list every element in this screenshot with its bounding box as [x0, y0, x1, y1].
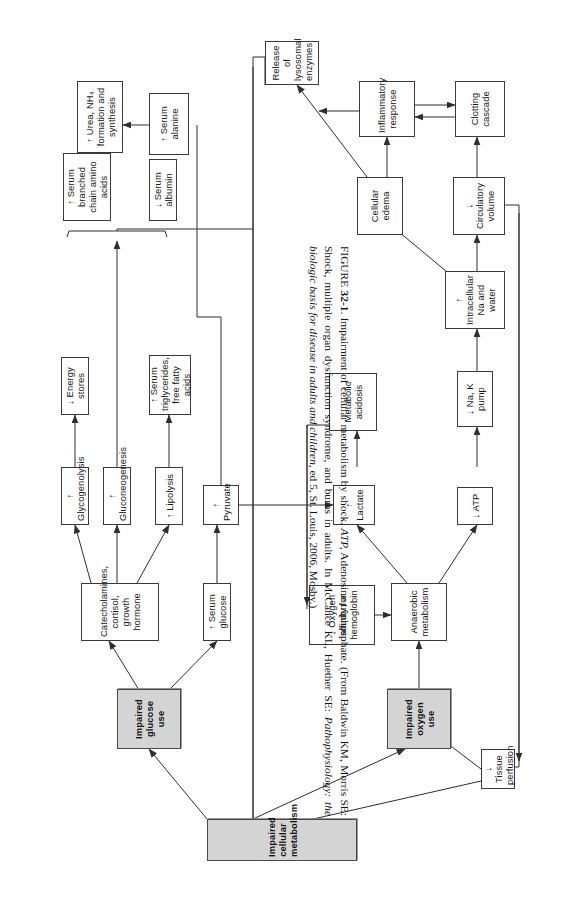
figure-label: FIGURE: [339, 246, 351, 287]
abbrev-definition: Adenosine triphosphate.: [339, 552, 351, 663]
node-inflammatory-response[interactable]: Inflammatory response: [359, 81, 415, 137]
node-label: ↑ Serum triglycerides, free fatty acids: [148, 359, 192, 411]
node-serum-triglycerides[interactable]: ↑ Serum triglycerides, free fatty acids: [149, 355, 191, 415]
node-catecholamines[interactable]: Catecholamines, cortisol, growth hormone: [81, 583, 159, 641]
node-label: ↑ Pyruvate: [210, 489, 232, 521]
node-label: ↓ Na, K pump: [464, 375, 486, 423]
node-label: ↓ Energy stores: [64, 361, 86, 411]
node-energy-stores[interactable]: ↓ Energy stores: [61, 357, 89, 415]
node-label: ↓ Tissue perfusion: [482, 753, 515, 785]
node-serum-branched-chain-amino-acids[interactable]: ↑ Serum branched chain amino acids: [63, 153, 111, 221]
node-label: ↑ Serum alanine: [158, 97, 180, 151]
figure-source-post: ed 5, St. Louis, 2006, Mosby.): [308, 471, 320, 609]
node-label: ↑ Lipolysis: [164, 471, 175, 521]
node-release-lysosomal-enzymes[interactable]: Release of lysosomal enzymes: [265, 41, 319, 85]
node-impaired-glucose-use[interactable]: Impaired glucose use: [117, 689, 181, 749]
node-label: ↓ ATP: [470, 491, 481, 521]
node-anaerobic-metabolism[interactable]: Anaerobic metabolism: [391, 583, 447, 641]
node-label: ↑ Serum glucose: [206, 587, 228, 637]
node-label: ↑ Glycogenolysis: [64, 471, 86, 521]
node-label: Clotting cascade: [469, 85, 491, 133]
node-circulatory-volume[interactable]: ↓ Circulatory volume: [453, 177, 505, 235]
figure-number: 32-1: [339, 290, 351, 311]
abbrev-term: ATP,: [339, 528, 351, 549]
node-serum-alanine[interactable]: ↑ Serum alanine: [149, 93, 189, 155]
figure-title: Impairment of cellular metabolism by sho…: [339, 318, 351, 525]
node-pyruvate[interactable]: ↑ Pyruvate: [203, 485, 239, 525]
node-label: Release of lysosomal enzymes: [270, 45, 314, 81]
node-glycogenolysis[interactable]: ↑ Glycogenolysis: [61, 467, 89, 525]
node-serum-glucose[interactable]: ↑ Serum glucose: [203, 583, 231, 641]
node-label: Catecholamines, cortisol, growth hormone: [98, 587, 142, 637]
node-impaired-oxygen-use[interactable]: Impaired oxygen use: [387, 689, 451, 749]
node-gluconeogenesis[interactable]: ↑ Gluconeogenesis: [103, 467, 131, 525]
node-label: ↓ Serum albumin: [152, 163, 174, 217]
node-label: Cellular edema: [369, 181, 391, 231]
figure-diagram: Impaired cellular metabolism Impaired gl…: [57, 37, 527, 877]
node-serum-albumin[interactable]: ↓ Serum albumin: [149, 159, 177, 221]
node-label: ↑ Gluconeogenesis: [106, 471, 128, 521]
node-label: Anaerobic metabolism: [408, 587, 430, 637]
node-label: Impaired glucose use: [133, 693, 166, 745]
node-atp[interactable]: ↓ ATP: [457, 487, 493, 525]
node-label: ↓ Circulatory volume: [463, 181, 496, 231]
node-tissue-perfusion[interactable]: ↓ Tissue perfusion: [481, 749, 515, 789]
node-label: Inflammatory response: [376, 85, 398, 133]
node-label: Impaired oxygen use: [403, 693, 436, 745]
node-label: ↑ Intracellular Na and water: [453, 275, 497, 325]
node-label: ↑ Urea, NH₄ formation and synthesis: [84, 85, 117, 149]
node-clotting-cascade[interactable]: Clotting cascade: [455, 81, 505, 137]
node-intracellular-na-water[interactable]: ↑ Intracellular Na and water: [445, 271, 505, 329]
node-impaired-cellular-metabolism[interactable]: Impaired cellular metabolism: [207, 819, 357, 861]
node-label: Impaired cellular metabolism: [266, 823, 299, 857]
node-urea-nh4[interactable]: ↑ Urea, NH₄ formation and synthesis: [77, 81, 123, 153]
node-label: ↑ Serum branched chain amino acids: [65, 157, 109, 217]
node-cellular-edema[interactable]: Cellular edema: [357, 177, 403, 235]
node-na-k-pump[interactable]: ↓ Na, K pump: [457, 371, 493, 427]
node-lipolysis[interactable]: ↑ Lipolysis: [155, 467, 183, 525]
